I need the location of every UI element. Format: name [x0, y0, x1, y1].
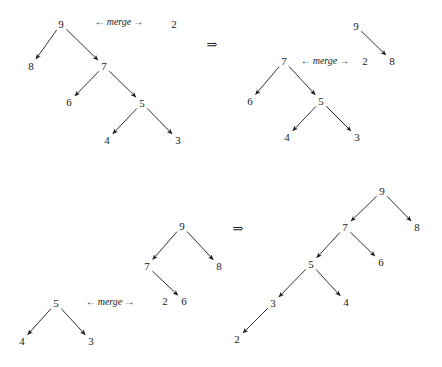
tree-node-tr-4: 4 — [284, 132, 290, 143]
tree-node-bl-4: 4 — [19, 336, 25, 347]
tree-node-br-6: 6 — [378, 257, 384, 268]
tree-edge-tr-9-to-tr-8 — [361, 31, 386, 55]
tree-node-bm-2: 2 — [162, 296, 168, 307]
merge-left-arrow-icon: ← — [301, 55, 311, 66]
tree-edges-layer — [0, 0, 442, 367]
tree-edge-br-7-to-br-6 — [350, 232, 375, 256]
tree-node-bl-5: 5 — [53, 298, 59, 309]
tree-node-tr-5: 5 — [318, 96, 324, 107]
tree-node-br-9: 9 — [379, 186, 385, 197]
tree-node-br-3: 3 — [270, 298, 276, 309]
merge-right-arrow-icon: → — [339, 55, 349, 66]
merge-right-arrow-icon: → — [133, 16, 143, 27]
tree-node-tl-8: 8 — [28, 61, 34, 72]
tree-edge-br-9-to-br-7 — [351, 196, 377, 221]
tree-node-tl-3: 3 — [175, 135, 181, 146]
tree-edge-bm-9-to-bm-8 — [187, 232, 213, 260]
tree-node-tr-8: 8 — [389, 56, 395, 67]
merge-left-arrow-icon: ← — [86, 296, 96, 307]
tree-edge-br-5-to-br-3 — [279, 269, 306, 297]
tree-edge-br-3-to-br-2 — [243, 308, 268, 333]
tree-node-tr-op-2: 2 — [362, 56, 368, 67]
tree-edge-bl-5-to-bl-4 — [28, 309, 51, 335]
tree-node-tl-7: 7 — [101, 61, 107, 72]
tree-edge-bm-9-to-bm-7 — [153, 232, 177, 260]
implies-arrow-icon: ⇒ — [233, 222, 244, 235]
tree-edge-tl-5-to-tl-4 — [113, 108, 137, 133]
tree-edge-br-5-to-br-4 — [316, 270, 340, 296]
tree-node-tr-6: 6 — [247, 96, 253, 107]
tree-node-tr-7: 7 — [281, 56, 287, 67]
tree-edge-tr-5-to-tr-4 — [293, 106, 316, 130]
tree-node-br-5: 5 — [308, 259, 314, 270]
implies-arrow-icon: ⇒ — [207, 38, 218, 51]
tree-edge-bl-5-to-bl-3 — [61, 309, 85, 335]
tree-node-tr-9: 9 — [353, 21, 359, 32]
tree-edge-tl-5-to-tl-3 — [147, 108, 172, 134]
tree-node-bm-8: 8 — [216, 261, 222, 272]
tree-edge-br-9-to-br-8 — [387, 196, 411, 221]
tree-edge-tl-9-to-tl-8 — [36, 30, 57, 59]
merge-left-arrow-icon: ← — [95, 16, 105, 27]
edge-group — [28, 29, 411, 335]
tree-edge-tl-7-to-tl-6 — [75, 71, 99, 96]
tree-node-br-4: 4 — [343, 297, 349, 308]
tree-edge-tl-9-to-tl-7 — [66, 29, 98, 60]
merge-label-merge-top-right: ←merge→ — [301, 56, 350, 66]
merge-right-arrow-icon: → — [124, 296, 134, 307]
tree-node-bl-3: 3 — [88, 336, 94, 347]
merge-word: merge — [311, 55, 340, 66]
tree-node-br-2: 2 — [234, 334, 240, 345]
merge-label-merge-top-left: ←merge→ — [95, 17, 144, 27]
tree-node-tl-5: 5 — [139, 98, 145, 109]
tree-edge-tr-7-to-tr-6 — [256, 67, 280, 95]
tree-edge-tl-7-to-tl-5 — [109, 71, 136, 97]
merge-label-merge-bottom-left: ←merge→ — [86, 297, 135, 307]
tree-edge-tr-5-to-tr-3 — [326, 106, 351, 131]
tree-node-tr-3: 3 — [354, 132, 360, 143]
tree-node-br-7: 7 — [342, 222, 348, 233]
merge-word: merge — [96, 296, 125, 307]
tree-edge-tr-7-to-tr-5 — [289, 67, 315, 95]
tree-node-br-8: 8 — [414, 222, 420, 233]
tree-node-bm-7: 7 — [144, 261, 150, 272]
tree-node-tl-6: 6 — [66, 97, 72, 108]
heap-merge-figure: 9876543298765432←merge→←merge→⇒543978269… — [0, 0, 442, 367]
tree-node-bm-6: 6 — [181, 296, 187, 307]
merge-word: merge — [105, 16, 134, 27]
tree-node-tl-op-2: 2 — [171, 19, 177, 30]
tree-edge-bm-7-to-bm-6 — [152, 271, 177, 295]
tree-edge-br-7-to-br-5 — [317, 233, 340, 258]
tree-node-tl-9: 9 — [58, 19, 64, 30]
tree-node-bm-9: 9 — [179, 221, 185, 232]
tree-node-tl-4: 4 — [104, 135, 110, 146]
